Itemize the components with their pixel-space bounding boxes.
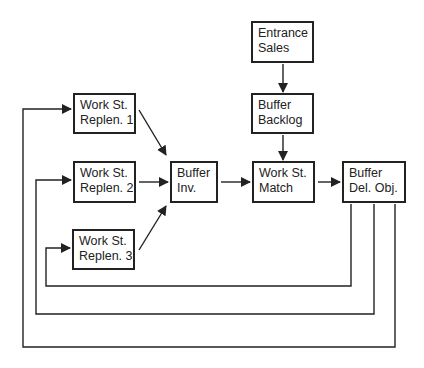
edge-replen3-to-inv bbox=[139, 206, 166, 250]
node-label-line: Buffer bbox=[258, 98, 312, 113]
node-label-line: Work St. bbox=[259, 166, 313, 181]
edge-feedback-to-replen1 bbox=[23, 109, 395, 347]
node-work-st-replen-3: Work St. Replen. 3 bbox=[72, 229, 135, 270]
node-label-line: Replen. 3 bbox=[79, 249, 133, 264]
node-label-line: Work St. bbox=[79, 234, 133, 249]
node-label-line: Work St. bbox=[80, 166, 134, 181]
node-label-line: Backlog bbox=[258, 113, 312, 128]
node-label-line: Inv. bbox=[177, 181, 216, 196]
node-label-line: Buffer bbox=[177, 166, 216, 181]
node-buffer-backlog: Buffer Backlog bbox=[251, 93, 314, 134]
node-work-st-match: Work St. Match bbox=[252, 161, 315, 203]
node-label-line: Entrance bbox=[258, 26, 312, 41]
node-buffer-inv: Buffer Inv. bbox=[170, 161, 218, 203]
node-work-st-replen-2: Work St. Replen. 2 bbox=[73, 161, 136, 203]
node-work-st-replen-1: Work St. Replen. 1 bbox=[73, 93, 136, 134]
node-entrance-sales: Entrance Sales bbox=[251, 21, 314, 63]
node-label-line: Sales bbox=[258, 41, 312, 56]
node-buffer-del-obj: Buffer Del. Obj. bbox=[342, 161, 406, 203]
node-label-line: Buffer bbox=[349, 166, 404, 181]
flow-diagram: Entrance Sales Buffer Backlog Work St. R… bbox=[0, 0, 424, 368]
node-label-line: Work St. bbox=[80, 98, 134, 113]
node-label-line: Replen. 2 bbox=[80, 181, 134, 196]
node-label-line: Match bbox=[259, 181, 313, 196]
node-label-line: Replen. 1 bbox=[80, 113, 134, 128]
edge-replen1-to-inv bbox=[139, 110, 166, 155]
node-label-line: Del. Obj. bbox=[349, 181, 404, 196]
